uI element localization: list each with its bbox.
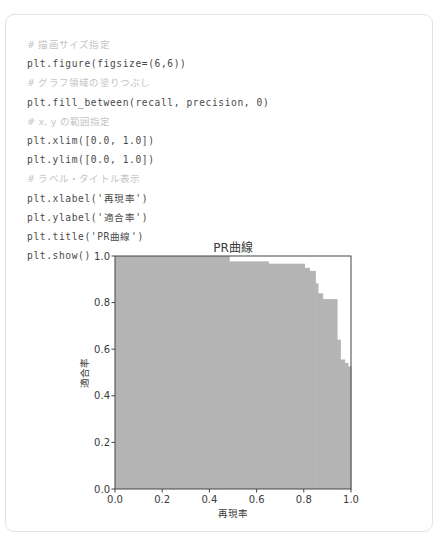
fill-step-7 — [323, 299, 338, 489]
fill-step-8 — [337, 340, 341, 489]
x-tick-label: 0.0 — [107, 494, 123, 505]
x-tick-label: 0.2 — [154, 494, 170, 505]
y-tick-label: 0.4 — [94, 390, 110, 401]
fill-step-9 — [340, 359, 345, 489]
y-tick-label: 0.8 — [94, 297, 110, 308]
y-tick-label: 0.6 — [94, 344, 110, 355]
x-axis-label: 再現率 — [218, 508, 248, 519]
y-tick-label: 0.2 — [94, 437, 110, 448]
fill-step-4 — [309, 271, 315, 489]
y-tick-label: 1.0 — [94, 251, 110, 262]
x-tick-label: 1.0 — [343, 494, 359, 505]
fill-step-6 — [318, 293, 323, 489]
x-tick-label: 0.6 — [249, 494, 265, 505]
fill-step-3 — [305, 268, 310, 489]
fill-step-0 — [115, 256, 230, 489]
fill-area-layer — [115, 256, 352, 489]
fill-step-10 — [345, 363, 349, 489]
x-tick-label: 0.8 — [296, 494, 312, 505]
y-axis-label: 適合率 — [79, 358, 90, 388]
pr-curve-chart: 0.00.20.40.60.81.00.00.20.40.60.81.0 PR曲… — [0, 0, 440, 536]
fill-step-1 — [229, 261, 269, 489]
fill-step-2 — [268, 264, 305, 489]
x-tick-label: 0.4 — [201, 494, 217, 505]
y-tick-label: 0.0 — [94, 484, 110, 495]
chart-title: PR曲線 — [213, 240, 253, 255]
